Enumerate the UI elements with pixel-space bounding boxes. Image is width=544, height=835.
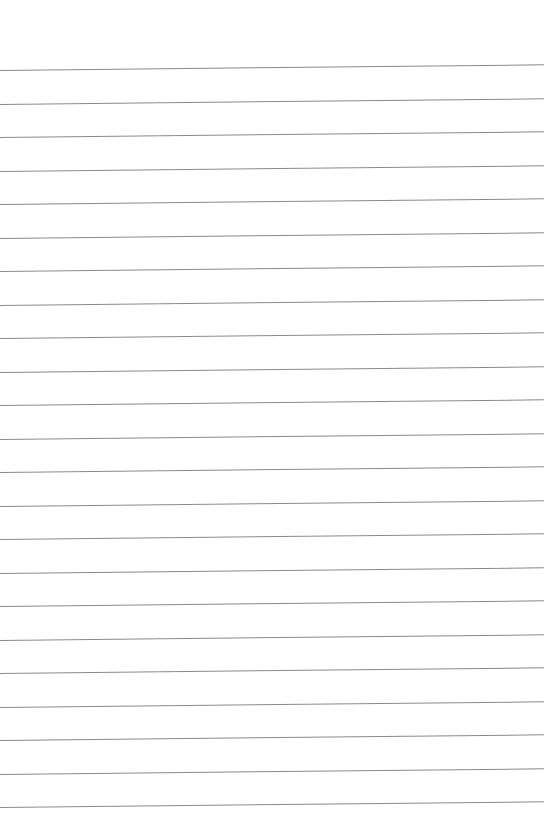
lined-paper-sheet (0, 0, 544, 835)
ruled-line (0, 299, 544, 306)
ruled-line (0, 98, 544, 105)
ruled-line (0, 734, 544, 741)
ruled-line (0, 131, 544, 138)
ruled-line (0, 768, 544, 775)
ruled-line (0, 64, 544, 71)
ruled-line (0, 433, 544, 440)
ruled-line (0, 500, 544, 507)
ruled-line (0, 533, 544, 540)
ruled-line (0, 366, 544, 373)
ruled-line (0, 232, 544, 239)
ruled-line (0, 634, 544, 641)
ruled-line (0, 265, 544, 272)
ruled-line (0, 701, 544, 708)
ruled-line (0, 801, 544, 808)
ruled-line (0, 466, 544, 473)
ruled-line (0, 165, 544, 172)
ruled-line (0, 332, 544, 339)
ruled-line (0, 667, 544, 674)
ruled-line (0, 600, 544, 607)
ruled-line (0, 399, 544, 406)
ruled-line (0, 567, 544, 574)
ruled-line (0, 198, 544, 205)
